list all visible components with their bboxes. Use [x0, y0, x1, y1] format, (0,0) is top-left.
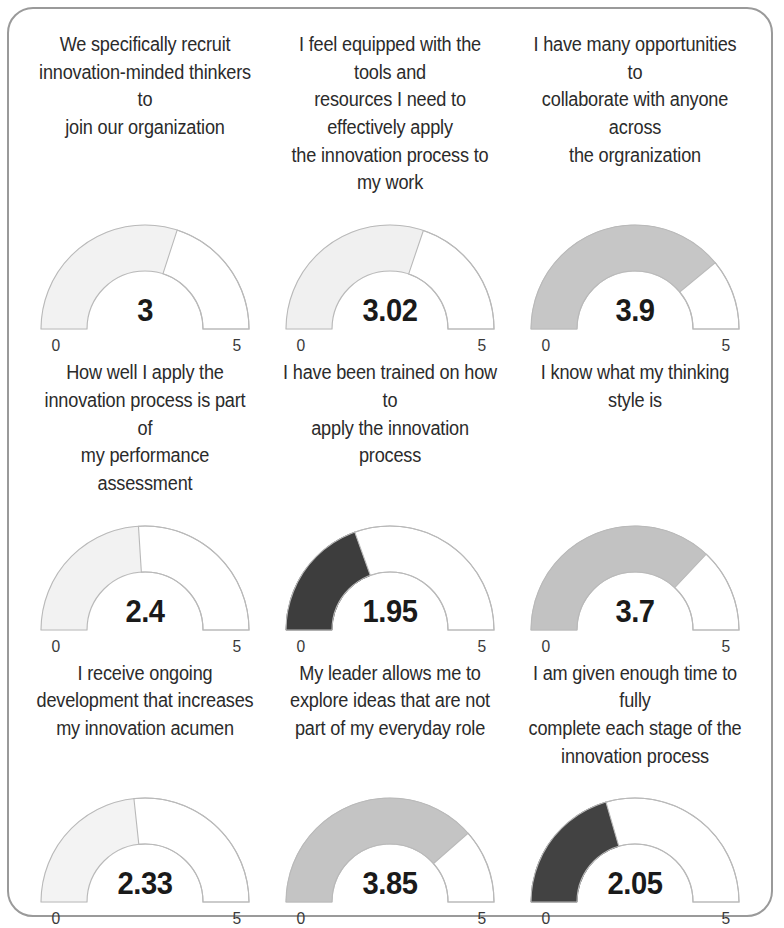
gauge-min-tick-label: 0 — [296, 637, 305, 657]
gauge-value-label: 2.33 — [40, 866, 251, 902]
gauge-min-tick-label: 0 — [52, 336, 61, 356]
gauge-been-trained: 1.9505 — [278, 498, 502, 634]
gauge-question-label: We specifically recruit innovation-minde… — [36, 31, 255, 142]
gauge-cell-leader-allows-explore: My leader allows me to explore ideas tha… — [268, 660, 513, 928]
gauge-min-tick-label: 0 — [541, 637, 550, 657]
gauge-cell-ongoing-development: I receive ongoing development that incre… — [23, 660, 268, 928]
gauge-question-label: How well I apply the innovation process … — [36, 359, 255, 497]
gauge-thinking-style: 3.705 — [523, 498, 747, 634]
gauge-value-label: 3 — [40, 293, 251, 329]
gauge-value-label: 1.95 — [285, 594, 496, 630]
gauge-cell-equipped-with-tools: I feel equipped with the tools and resou… — [268, 31, 513, 359]
gauge-grid: We specifically recruit innovation-minde… — [9, 9, 771, 915]
gauge-max-tick-label: 5 — [232, 909, 241, 928]
gauge-min-tick-label: 0 — [296, 336, 305, 356]
gauge-max-tick-label: 5 — [232, 336, 241, 356]
gauge-max-tick-label: 5 — [722, 336, 731, 356]
gauge-max-tick-label: 5 — [722, 637, 731, 657]
gauge-question-label: I have been trained on how to apply the … — [280, 359, 499, 470]
gauge-cell-performance-assessment: How well I apply the innovation process … — [23, 359, 268, 659]
gauge-cell-been-trained: I have been trained on how to apply the … — [268, 359, 513, 659]
gauge-equipped-with-tools: 3.0205 — [278, 197, 502, 333]
gauge-ongoing-development: 2.3305 — [33, 770, 257, 906]
gauge-question-label: I am given enough time to fully complete… — [525, 660, 744, 771]
gauge-question-label: I receive ongoing development that incre… — [36, 660, 255, 743]
gauge-max-tick-label: 5 — [477, 909, 486, 928]
gauge-value-label: 3.85 — [285, 866, 496, 902]
gauge-min-tick-label: 0 — [541, 336, 550, 356]
gauge-max-tick-label: 5 — [722, 909, 731, 928]
gauge-value-label: 2.4 — [40, 594, 251, 630]
gauge-min-tick-label: 0 — [541, 909, 550, 928]
gauge-value-label: 3.9 — [529, 293, 740, 329]
gauge-recruit-innovation-minded: 305 — [33, 197, 257, 333]
gauge-min-tick-label: 0 — [52, 909, 61, 928]
gauge-opportunities-to-collaborate: 3.905 — [523, 197, 747, 333]
gauge-question-label: I feel equipped with the tools and resou… — [280, 31, 499, 197]
gauge-enough-time-each-stage: 2.0505 — [523, 770, 747, 906]
gauge-question-label: My leader allows me to explore ideas tha… — [280, 660, 499, 743]
gauge-min-tick-label: 0 — [52, 637, 61, 657]
gauge-value-label: 3.02 — [285, 293, 496, 329]
gauge-cell-opportunities-to-collaborate: I have many opportunities to collaborate… — [512, 31, 757, 359]
gauge-question-label: I know what my thinking style is — [525, 359, 744, 414]
gauge-performance-assessment: 2.405 — [33, 498, 257, 634]
gauge-cell-enough-time-each-stage: I am given enough time to fully complete… — [512, 660, 757, 928]
gauge-cell-thinking-style: I know what my thinking style is3.705 — [512, 359, 757, 659]
dashboard-card: We specifically recruit innovation-minde… — [7, 7, 773, 917]
gauge-cell-recruit-innovation-minded: We specifically recruit innovation-minde… — [23, 31, 268, 359]
gauge-min-tick-label: 0 — [296, 909, 305, 928]
gauge-max-tick-label: 5 — [232, 637, 241, 657]
gauge-value-label: 2.05 — [529, 866, 740, 902]
gauge-leader-allows-explore: 3.8505 — [278, 770, 502, 906]
gauge-max-tick-label: 5 — [477, 336, 486, 356]
gauge-value-label: 3.7 — [529, 594, 740, 630]
gauge-max-tick-label: 5 — [477, 637, 486, 657]
gauge-question-label: I have many opportunities to collaborate… — [525, 31, 744, 169]
